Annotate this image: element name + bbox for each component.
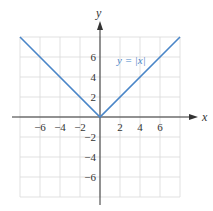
y-tick-label: −6 bbox=[84, 171, 96, 183]
equation-label: y = |x| bbox=[116, 54, 146, 66]
y-tick-label: 2 bbox=[91, 91, 97, 103]
y-tick-label: 6 bbox=[91, 51, 97, 63]
x-tick-label: −4 bbox=[54, 121, 66, 133]
x-tick-label: 2 bbox=[117, 121, 123, 133]
y-axis-arrow-icon bbox=[97, 21, 103, 30]
y-axis-label: y bbox=[95, 6, 102, 20]
y-tick-label: −2 bbox=[84, 131, 96, 143]
x-axis-label: x bbox=[201, 110, 208, 124]
x-tick-label: 4 bbox=[137, 121, 143, 133]
x-tick-label: −6 bbox=[34, 121, 46, 133]
y-tick-label: −4 bbox=[84, 151, 96, 163]
x-tick-label: 6 bbox=[157, 121, 163, 133]
graph-canvas: −6−4−2246642−2−4−6 x y y = |x| bbox=[0, 0, 213, 211]
x-axis-arrow-icon bbox=[189, 114, 198, 120]
y-tick-label: 4 bbox=[91, 71, 97, 83]
